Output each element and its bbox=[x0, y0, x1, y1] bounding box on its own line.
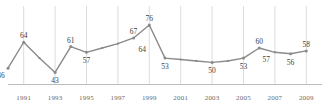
data-value-label: 64 bbox=[139, 45, 147, 54]
data-point-marker bbox=[101, 47, 103, 49]
data-value-label: 58 bbox=[303, 40, 311, 49]
x-axis-tick-label: 2003 bbox=[205, 94, 220, 102]
data-series-line bbox=[8, 25, 306, 73]
gridlines bbox=[24, 6, 307, 84]
data-point-marker bbox=[148, 23, 151, 26]
data-value-label: 46 bbox=[0, 71, 5, 80]
x-axis-tick-label: 1991 bbox=[16, 94, 31, 102]
data-point-marker bbox=[85, 51, 88, 54]
x-axis-tick-label: 2001 bbox=[173, 94, 188, 102]
data-value-label: 43 bbox=[51, 76, 59, 85]
data-point-marker bbox=[180, 58, 182, 60]
data-point-marker bbox=[242, 57, 245, 60]
x-axis-tick-label: 2005 bbox=[236, 94, 251, 102]
x-axis-tick-label: 1993 bbox=[48, 94, 63, 102]
data-value-label: 76 bbox=[146, 14, 154, 23]
data-point-marker bbox=[7, 67, 10, 70]
data-point-marker bbox=[258, 47, 261, 50]
data-value-label: 53 bbox=[161, 62, 169, 71]
data-value-label: 60 bbox=[255, 37, 263, 46]
x-axis-tick-label: 2009 bbox=[299, 94, 314, 102]
data-point-marker bbox=[289, 52, 292, 55]
chart-plot-area bbox=[0, 0, 330, 109]
data-point-marker bbox=[54, 71, 57, 74]
data-point-marker bbox=[22, 41, 25, 44]
data-value-label: 64 bbox=[20, 31, 28, 40]
data-value-label: 61 bbox=[67, 36, 75, 45]
data-value-label: 56 bbox=[287, 58, 295, 67]
data-point-marker bbox=[117, 43, 119, 45]
x-axis-tick-label: 2007 bbox=[267, 94, 282, 102]
data-value-label: 53 bbox=[240, 62, 248, 71]
x-axis-tick-label: 1995 bbox=[79, 94, 94, 102]
data-value-label: 57 bbox=[83, 56, 91, 65]
data-point-marker bbox=[227, 60, 229, 62]
data-point-marker bbox=[305, 49, 308, 52]
x-axis-tick-label: 1997 bbox=[110, 94, 125, 102]
data-value-label: 57 bbox=[262, 55, 270, 64]
data-point-marker bbox=[69, 45, 72, 48]
data-point-marker bbox=[211, 61, 214, 64]
data-point-marker bbox=[274, 51, 276, 53]
data-point-marker bbox=[38, 57, 40, 59]
x-axis-tick-label: 1999 bbox=[142, 94, 157, 102]
data-point-marker bbox=[195, 60, 197, 62]
data-value-label: 50 bbox=[208, 66, 216, 75]
line-chart: 1991199319951997199920012003200520072009… bbox=[0, 0, 330, 109]
data-point-marker bbox=[132, 36, 135, 39]
data-point-marker bbox=[164, 57, 167, 60]
data-value-label: 67 bbox=[130, 27, 138, 36]
